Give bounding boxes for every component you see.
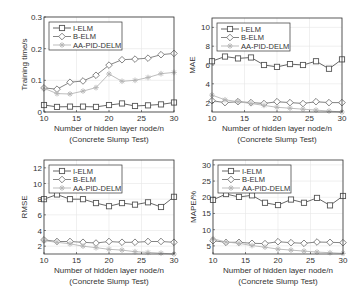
chart-subtitle: (Concrete Slump Test) xyxy=(238,277,318,286)
x-tick-label: 30 xyxy=(339,256,348,265)
star-marker xyxy=(301,248,307,254)
square-marker xyxy=(80,104,85,109)
star-marker xyxy=(227,43,233,49)
x-tick-label: 20 xyxy=(274,256,283,265)
x-tick-label: 15 xyxy=(72,114,81,123)
legend: I-ELMB-ELMAA-PID-DELM xyxy=(49,165,122,193)
figure: 101520253000.10.20.3Number of hidden lay… xyxy=(0,0,364,305)
legend: I-ELMB-ELMAA-PID-DELM xyxy=(217,23,290,51)
star-marker xyxy=(67,91,73,97)
y-tick-label: 2 xyxy=(206,99,211,108)
y-tick-label: 8 xyxy=(38,195,43,204)
x-tick-label: 20 xyxy=(273,114,282,123)
square-marker xyxy=(67,197,72,202)
y-tick-label: 4 xyxy=(38,227,43,236)
square-marker xyxy=(119,101,124,106)
chart-subtitle: (Concrete Slump Test) xyxy=(69,135,149,144)
y-axis-label: RMSE xyxy=(20,195,29,218)
chart-subtitle: (Concrete Slump Test) xyxy=(237,135,317,144)
square-marker xyxy=(54,104,59,109)
x-tick-label: 30 xyxy=(170,256,179,265)
legend: I-ELMB-ELMAA-PID-DELM xyxy=(218,165,291,193)
legend-label: AA-PID-DELM xyxy=(241,42,289,51)
y-tick-label: 10 xyxy=(33,180,42,189)
x-tick-label: 20 xyxy=(105,114,114,123)
star-marker xyxy=(326,108,332,114)
y-tick-label: 0.2 xyxy=(31,45,43,54)
square-marker xyxy=(300,62,305,67)
square-marker xyxy=(274,64,279,69)
x-axis-label: Number of hidden layer node/n xyxy=(223,266,333,275)
square-marker xyxy=(262,200,267,205)
chart-panel-mape: 101520253051015202530Number of hidden la… xyxy=(189,160,348,286)
square-marker xyxy=(67,104,72,109)
square-marker xyxy=(261,62,266,67)
star-marker xyxy=(300,106,306,112)
square-marker xyxy=(249,193,254,198)
y-tick-label: 5 xyxy=(207,242,212,251)
square-marker xyxy=(275,202,280,207)
star-marker xyxy=(275,246,281,252)
square-marker xyxy=(132,103,137,108)
legend-label: AA-PID-DELM xyxy=(73,184,121,193)
x-tick-label: 10 xyxy=(40,256,49,265)
square-marker xyxy=(314,195,319,200)
chart-panel-trainingtimes: 101520253000.10.20.3Number of hidden lay… xyxy=(20,13,179,144)
square-marker xyxy=(287,61,292,66)
square-marker xyxy=(93,104,98,109)
y-tick-label: 30 xyxy=(202,161,211,170)
star-marker xyxy=(223,239,229,245)
x-tick-label: 25 xyxy=(306,256,315,265)
square-marker xyxy=(313,59,318,64)
square-marker xyxy=(93,200,98,205)
x-tick-label: 15 xyxy=(240,114,249,123)
square-marker xyxy=(288,197,293,202)
square-marker xyxy=(326,66,331,71)
y-axis-label: Training time/s xyxy=(20,38,29,90)
star-marker xyxy=(106,71,112,77)
y-tick-label: 0.1 xyxy=(31,76,43,85)
square-marker xyxy=(301,200,306,205)
square-marker xyxy=(222,54,227,59)
square-marker xyxy=(106,102,111,107)
x-tick-label: 25 xyxy=(137,256,146,265)
square-marker xyxy=(132,202,137,207)
star-marker xyxy=(274,105,280,111)
y-tick-label: 12 xyxy=(33,164,42,173)
x-tick-label: 10 xyxy=(208,114,217,123)
square-marker xyxy=(235,56,240,61)
star-marker xyxy=(80,243,86,249)
y-axis-label: MAPE/% xyxy=(189,191,198,223)
square-marker xyxy=(145,103,150,108)
star-marker xyxy=(235,99,241,105)
star-marker xyxy=(54,239,60,245)
chart-subtitle: (Concrete Slump Test) xyxy=(69,277,149,286)
x-tick-label: 15 xyxy=(72,256,81,265)
y-tick-label: 15 xyxy=(202,209,211,218)
y-tick-label: 20 xyxy=(202,193,211,202)
x-tick-label: 30 xyxy=(170,114,179,123)
square-marker xyxy=(106,204,111,209)
legend-label: AA-PID-DELM xyxy=(73,41,121,50)
square-marker xyxy=(228,168,233,173)
y-tick-label: 6 xyxy=(38,211,43,220)
x-tick-label: 20 xyxy=(105,256,114,265)
star-marker xyxy=(145,75,151,81)
y-tick-label: 0 xyxy=(38,108,43,117)
y-tick-label: 6 xyxy=(206,61,211,70)
chart-panel-rmse: 101520253024681012Number of hidden layer… xyxy=(20,160,179,286)
x-tick-label: 30 xyxy=(338,114,347,123)
y-tick-label: 8 xyxy=(206,42,211,51)
square-marker xyxy=(327,203,332,208)
square-marker xyxy=(59,25,64,30)
y-tick-label: 10 xyxy=(201,23,210,32)
x-tick-label: 15 xyxy=(241,256,250,265)
y-tick-label: 2 xyxy=(38,242,43,251)
x-tick-label: 25 xyxy=(137,114,146,123)
square-marker xyxy=(227,26,232,31)
square-marker xyxy=(158,204,163,209)
x-tick-label: 25 xyxy=(305,114,314,123)
star-marker xyxy=(119,78,125,84)
x-axis-label: Number of hidden layer node/n xyxy=(54,266,164,275)
x-axis-label: Number of hidden layer node/n xyxy=(54,124,164,133)
